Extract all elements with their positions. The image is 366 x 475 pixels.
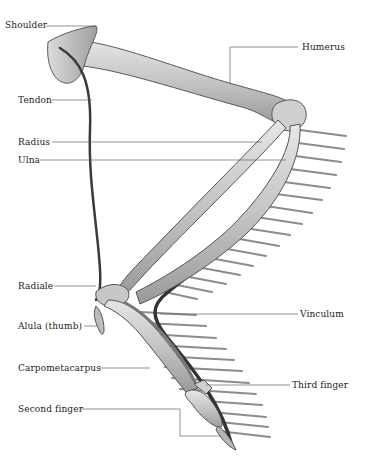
label-alula: Alula (thumb): [18, 321, 82, 331]
label-radius: Radius: [18, 137, 50, 147]
label-second-finger: Second finger: [18, 404, 83, 414]
second-finger-bone: [185, 390, 222, 428]
label-radiale: Radiale: [18, 281, 53, 291]
wing-diagram: Shoulder Tendon Radius Ulna Radiale Alul…: [0, 0, 366, 475]
label-shoulder: Shoulder: [5, 20, 47, 30]
ulna-bone: [136, 124, 300, 304]
label-third-finger: Third finger: [292, 380, 348, 390]
label-ulna: Ulna: [18, 155, 40, 165]
alula-bone: [94, 306, 104, 334]
label-vinculum: Vinculum: [300, 309, 344, 319]
label-carpometacarpus: Carpometacarpus: [18, 363, 101, 373]
tendon-strand: [60, 48, 100, 300]
label-tendon: Tendon: [18, 95, 52, 105]
humerus-bone: [70, 40, 297, 124]
label-humerus: Humerus: [302, 42, 345, 52]
